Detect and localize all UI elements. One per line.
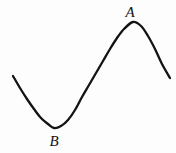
curve-label-a: A bbox=[126, 5, 135, 20]
curve-path bbox=[13, 22, 170, 128]
sinusoidal-curve-graphic bbox=[0, 0, 176, 153]
curve-label-b: B bbox=[50, 134, 59, 149]
curve-figure: A B bbox=[0, 0, 176, 153]
